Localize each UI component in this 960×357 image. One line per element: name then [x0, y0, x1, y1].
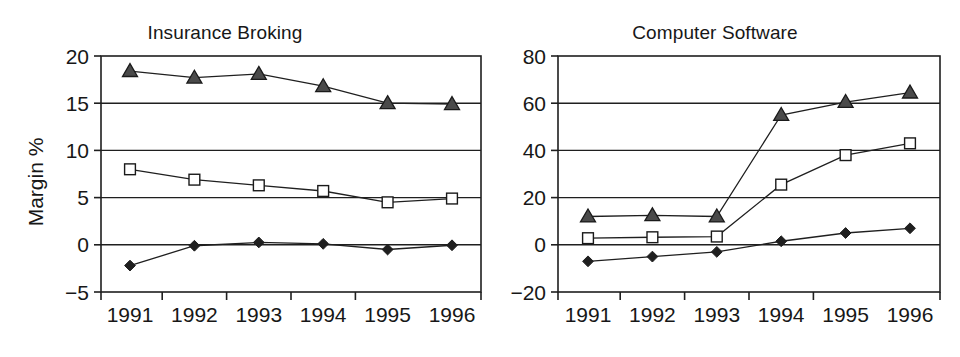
y-tick-label: −5	[65, 281, 89, 304]
diamond-marker	[647, 251, 658, 262]
square-marker	[318, 186, 329, 197]
diamond-marker	[905, 223, 916, 234]
triangle-marker	[581, 209, 596, 222]
triangle-marker	[903, 85, 918, 98]
square-marker	[840, 150, 851, 161]
dual-line-chart-figure: Insurance Broking Margin % −505101520199…	[0, 0, 960, 357]
diamond-marker	[711, 246, 722, 257]
triangle-marker	[251, 66, 266, 79]
square-marker	[905, 138, 916, 149]
diamond-marker	[447, 240, 458, 251]
diamond-marker	[382, 244, 393, 255]
square-marker	[647, 232, 658, 243]
triangle-marker	[123, 64, 138, 77]
series-line	[130, 242, 452, 265]
y-tick-label: 10	[66, 139, 89, 162]
y-tick-label: 40	[523, 139, 546, 162]
x-tick-label: 1995	[364, 303, 411, 326]
y-tick-label: 20	[66, 45, 89, 68]
x-tick-label: 1993	[235, 303, 282, 326]
diamond-marker	[125, 260, 136, 271]
x-tick-label: 1996	[429, 303, 476, 326]
diamond-marker	[318, 238, 329, 249]
x-tick-label: 1994	[758, 303, 805, 326]
y-tick-label: 0	[77, 233, 89, 256]
y-tick-label: 15	[66, 92, 89, 115]
x-tick-label: 1995	[822, 303, 869, 326]
x-tick-label: 1993	[693, 303, 740, 326]
diamond-marker	[583, 256, 594, 267]
series-triangle	[581, 85, 918, 222]
diamond-marker	[189, 240, 200, 251]
series-diamond	[125, 237, 458, 271]
square-marker	[189, 174, 200, 185]
square-marker	[382, 197, 393, 208]
square-marker	[447, 193, 458, 204]
y-tick-label: 0	[534, 233, 546, 256]
y-tick-label: 5	[77, 186, 89, 209]
chart-panel-computer-software: Computer Software −200204060801991199219…	[490, 0, 960, 357]
y-tick-label: 20	[523, 186, 546, 209]
triangle-marker	[709, 209, 724, 222]
triangle-marker	[645, 208, 660, 221]
x-tick-label: 1991	[565, 303, 612, 326]
plot-frame	[558, 56, 940, 292]
diamond-marker	[840, 228, 851, 239]
series-square	[583, 138, 916, 244]
series-line	[130, 71, 452, 104]
x-tick-label: 1994	[300, 303, 347, 326]
y-tick-label: −20	[510, 281, 546, 304]
square-marker	[583, 233, 594, 244]
x-tick-label: 1996	[887, 303, 934, 326]
y-tick-label: 60	[523, 92, 546, 115]
square-marker	[253, 180, 264, 191]
chart-panel-insurance-broking: Insurance Broking Margin % −505101520199…	[0, 0, 490, 357]
plot-area-right: −20020406080199119921993199419951996	[490, 0, 960, 357]
y-tick-label: 80	[523, 45, 546, 68]
x-tick-label: 1991	[107, 303, 154, 326]
x-tick-label: 1992	[629, 303, 676, 326]
square-marker	[711, 231, 722, 242]
square-marker	[776, 179, 787, 190]
series-square	[125, 164, 458, 208]
square-marker	[125, 164, 136, 175]
diamond-marker	[253, 237, 264, 248]
plot-area-left: −505101520199119921993199419951996	[0, 0, 490, 357]
series-line	[588, 143, 910, 238]
x-tick-label: 1992	[171, 303, 218, 326]
